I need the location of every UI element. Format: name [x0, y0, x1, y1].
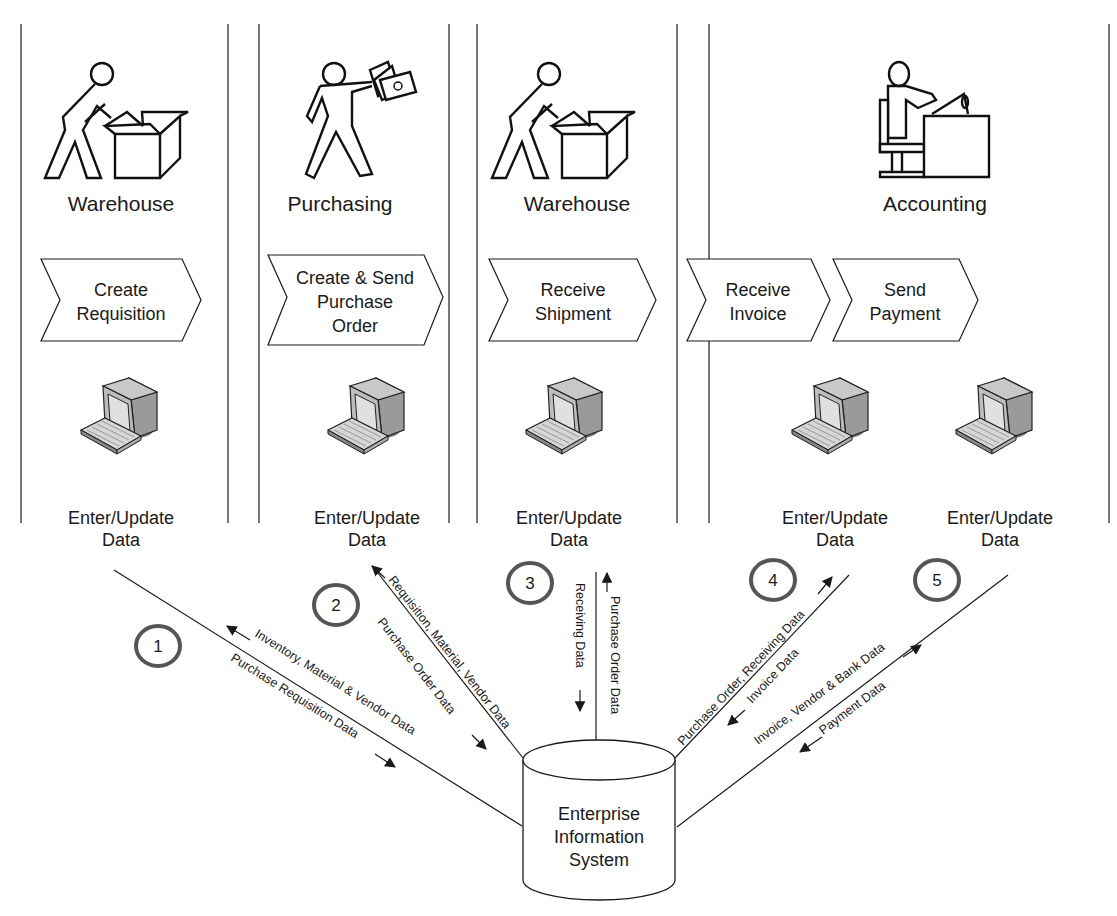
purchaser-money-icon [306, 62, 416, 178]
computer-icon [526, 378, 602, 454]
step-number-circles [136, 560, 959, 666]
pc-label-1-line2: Data [102, 530, 141, 550]
step-number-1: 1 [153, 637, 162, 656]
process-diagram: Warehouse Purchasing Warehouse Accountin… [0, 0, 1117, 916]
flow-3-from-system: Purchase Order Data [608, 596, 622, 714]
step-chevrons [41, 255, 978, 345]
step-receive-shipment-line2: Shipment [535, 304, 611, 324]
step-number-4: 4 [768, 571, 777, 590]
computer-icon [956, 378, 1032, 454]
pc-label-4-line2: Data [816, 530, 855, 550]
step-number-3: 3 [525, 574, 534, 593]
flow-4-from-system: Purchase Order, Receiving Data [675, 607, 808, 748]
step-create-po-line3: Order [332, 316, 378, 336]
step-number-2: 2 [331, 596, 340, 615]
step-create-po-line1: Create & Send [296, 268, 414, 288]
flow-2-to-system: Purchase Order Data [375, 615, 459, 717]
pc-label-2-line2: Data [348, 530, 387, 550]
lane-title-warehouse-2: Warehouse [524, 192, 631, 215]
pc-label-3-line2: Data [550, 530, 589, 550]
lane-title-warehouse: Warehouse [68, 192, 175, 215]
lane-title-purchasing: Purchasing [287, 192, 392, 215]
step-receive-shipment-line1: Receive [540, 280, 605, 300]
pc-label-4-line1: Enter/Update [782, 508, 888, 528]
pc-label-5-line2: Data [981, 530, 1020, 550]
worker-box-icon [45, 63, 188, 178]
database-label-line1: Enterprise [558, 804, 640, 824]
database-label-line2: Information [554, 827, 644, 847]
pc-label-2-line1: Enter/Update [314, 508, 420, 528]
step-receive-invoice-line2: Invoice [729, 304, 786, 324]
step-send-payment-line2: Payment [869, 304, 940, 324]
flow-3-to-system: Receiving Data [573, 583, 587, 668]
pc-label-3-line1: Enter/Update [516, 508, 622, 528]
computer-icon [81, 378, 157, 454]
pc-label-1-line1: Enter/Update [68, 508, 174, 528]
computer-icon [328, 378, 404, 454]
pc-label-5-line1: Enter/Update [947, 508, 1053, 528]
step-number-5: 5 [932, 571, 941, 590]
step-send-payment-line1: Send [884, 280, 926, 300]
accountant-desk-icon [880, 62, 989, 177]
step-receive-invoice-line1: Receive [725, 280, 790, 300]
step-create-requisition-line1: Create [94, 280, 148, 300]
step-create-requisition-line2: Requisition [76, 304, 165, 324]
lane-title-accounting: Accounting [883, 192, 987, 215]
database-label-line3: System [569, 850, 629, 870]
worker-box-icon [492, 63, 635, 178]
step-create-po-line2: Purchase [317, 292, 393, 312]
computer-icon [792, 378, 868, 454]
